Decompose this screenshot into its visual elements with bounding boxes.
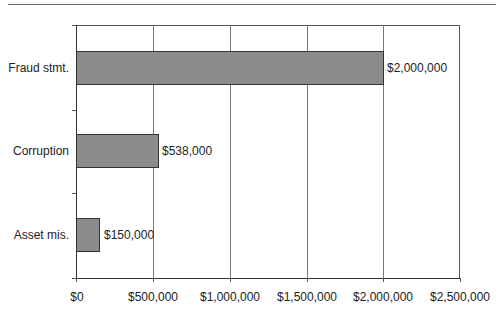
top-rule — [8, 4, 496, 5]
value-label: $2,000,000 — [387, 61, 447, 75]
x-tick — [153, 278, 154, 282]
value-label: $538,000 — [162, 144, 212, 158]
x-tick-label: $1,500,000 — [277, 290, 337, 304]
x-axis — [76, 278, 461, 279]
y-tick — [72, 110, 76, 111]
x-tick-label: $500,000 — [128, 290, 178, 304]
x-tick-label: $0 — [70, 290, 83, 304]
bar-corruption — [76, 134, 159, 168]
y-tick — [72, 193, 76, 194]
bar-fraud-stmt — [76, 51, 384, 85]
category-label: Fraud stmt. — [8, 61, 69, 75]
x-tick-label: $2,000,000 — [353, 290, 413, 304]
category-label: Asset mis. — [14, 228, 69, 242]
value-label: $150,000 — [104, 228, 154, 242]
x-tick — [307, 278, 308, 282]
y-tick — [72, 25, 76, 26]
bar-asset-mis — [76, 218, 100, 252]
category-label: Corruption — [13, 144, 69, 158]
x-tick — [76, 278, 77, 282]
x-tick — [230, 278, 231, 282]
x-tick — [383, 278, 384, 282]
x-tick-label: $2,500,000 — [430, 290, 490, 304]
x-tick-label: $1,000,000 — [200, 290, 260, 304]
x-tick — [460, 278, 461, 282]
